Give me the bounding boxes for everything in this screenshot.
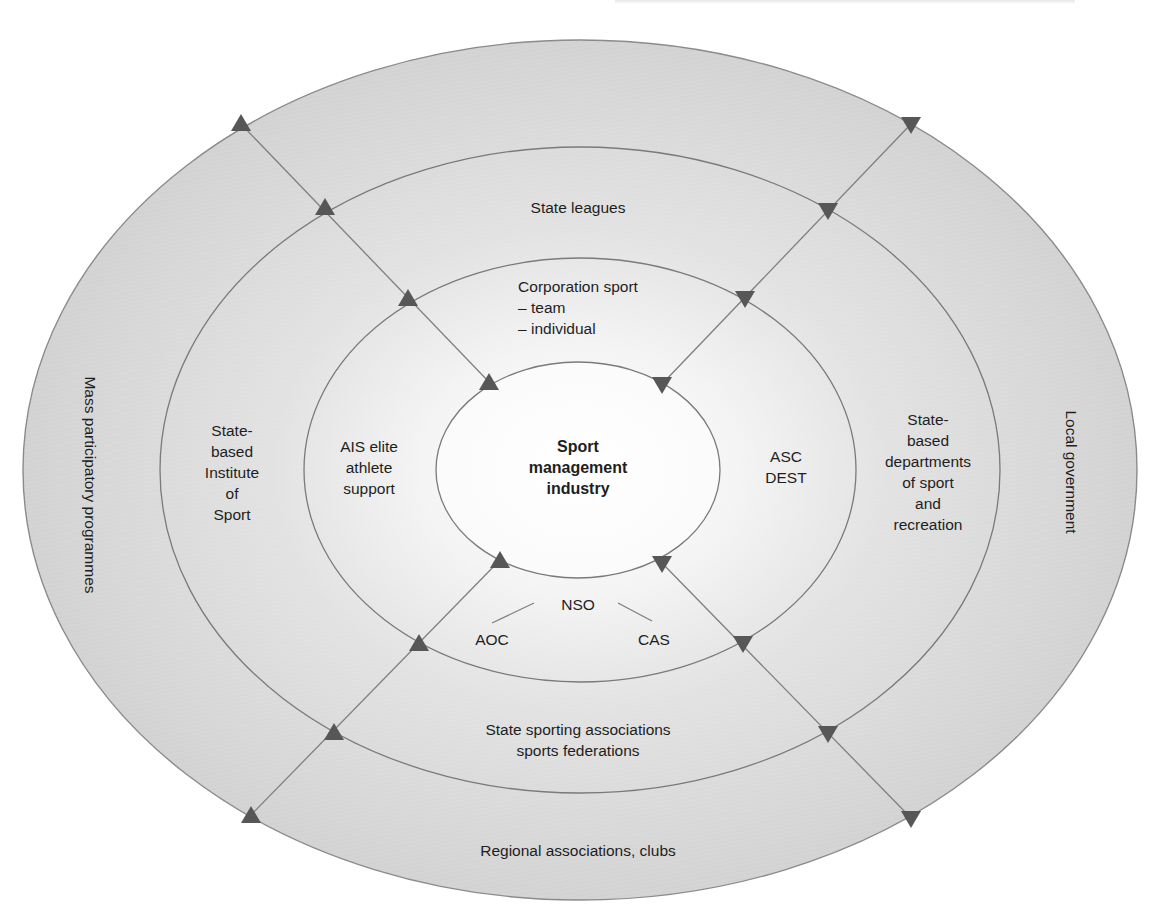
inner-ring-right-label: ASC DEST [765,446,806,488]
inner-ring-left-label: AIS elite athlete support [340,436,398,499]
sport-management-diagram: Sport management industry Corporation sp… [0,0,1163,922]
middle-ring-top-label: State leagues [531,197,626,218]
inner-ring-bottom-left-label: AOC [475,629,509,650]
center-label: Sport management industry [529,436,628,499]
outer-ring-bottom-label: Regional associations, clubs [480,840,676,861]
outer-ring-right-label: Local government [1062,410,1080,533]
middle-ring-right-label: State- based departments of sport and re… [885,409,971,535]
inner-ring-bottom-main-label: NSO [561,594,595,615]
inner-ring-bottom-right-label: CAS [638,629,670,650]
inner-ring-top-label: Corporation sport – team – individual [518,276,638,339]
middle-ring-bottom-label: State sporting associations sports feder… [485,719,670,761]
middle-ring-left-label: State- based Institute of Sport [205,420,259,525]
outer-ring-left-label: Mass participatory programmes [81,376,99,593]
